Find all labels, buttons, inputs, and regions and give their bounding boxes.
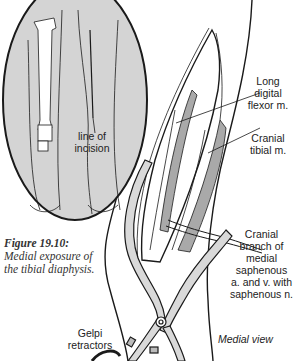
line-of-incision-label: line of incision (62, 130, 122, 154)
surgical-illustration (0, 0, 296, 361)
cranial-tibial-label: Cranial tibial m. (240, 132, 296, 156)
long-digital-flexor-label: Long digital flexor m. (240, 75, 296, 111)
view-label: Medial view (218, 333, 273, 345)
inset-oval (3, 0, 147, 220)
figure-caption-text: Medial exposure of the tibial diaphysis. (4, 250, 94, 275)
figure-caption: Figure 19.10: Medial exposure of the tib… (4, 237, 104, 276)
exposed-muscles (137, 28, 226, 262)
gelpi-retractors-label: Gelpi retractors (60, 327, 120, 351)
cranial-branch-saphenous-label: Cranial branch of medial saphenous a. an… (227, 228, 296, 300)
figure-number: Figure 19.10: (4, 237, 104, 250)
